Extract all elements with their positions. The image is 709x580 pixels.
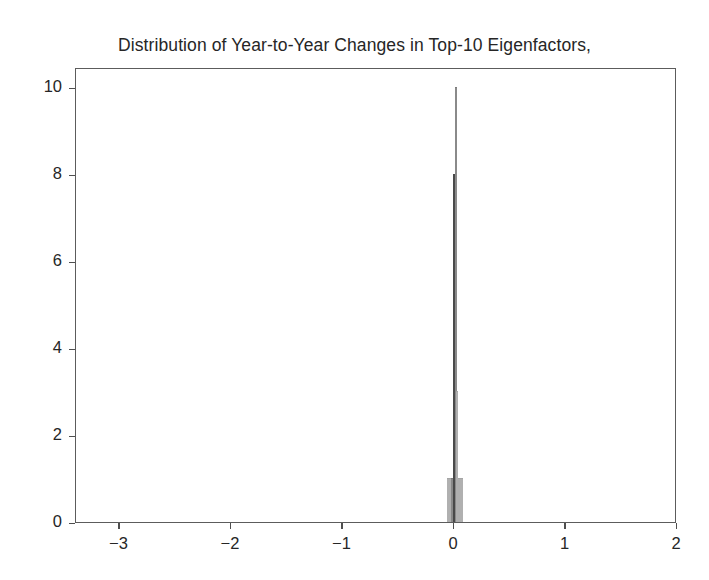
histogram-bars xyxy=(76,69,675,522)
y-axis-tick-label: 10 xyxy=(8,77,62,96)
y-axis-tick xyxy=(69,88,75,89)
x-axis-tick xyxy=(564,523,565,529)
y-axis-tick-label: 8 xyxy=(8,164,62,183)
y-axis-tick-label: 4 xyxy=(8,338,62,357)
x-axis-tick-label: −3 xyxy=(88,534,148,553)
y-axis-tick xyxy=(69,349,75,350)
x-axis-tick-label: 0 xyxy=(423,534,483,553)
x-axis-tick xyxy=(453,523,454,529)
y-axis-tick-label: 2 xyxy=(8,425,62,444)
y-axis-tick xyxy=(69,262,75,263)
x-axis-tick-label: −1 xyxy=(311,534,371,553)
y-axis-tick xyxy=(69,436,75,437)
x-axis-tick-label: −2 xyxy=(200,534,260,553)
x-axis-tick-label: 2 xyxy=(646,534,706,553)
x-axis-tick-label: 1 xyxy=(534,534,594,553)
histogram-bar xyxy=(461,478,463,522)
plot-frame xyxy=(75,68,676,523)
chart-figure: Distribution of Year-to-Year Changes in … xyxy=(0,0,709,580)
chart-title-line-1: Distribution of Year-to-Year Changes in … xyxy=(0,33,709,58)
y-axis-tick-label: 0 xyxy=(8,512,62,531)
y-axis-tick xyxy=(69,175,75,176)
x-axis-tick xyxy=(676,523,677,529)
y-axis-tick xyxy=(69,523,75,524)
y-axis-tick-label: 6 xyxy=(8,251,62,270)
x-axis-tick xyxy=(341,523,342,529)
x-axis-tick xyxy=(118,523,119,529)
x-axis-tick xyxy=(230,523,231,529)
